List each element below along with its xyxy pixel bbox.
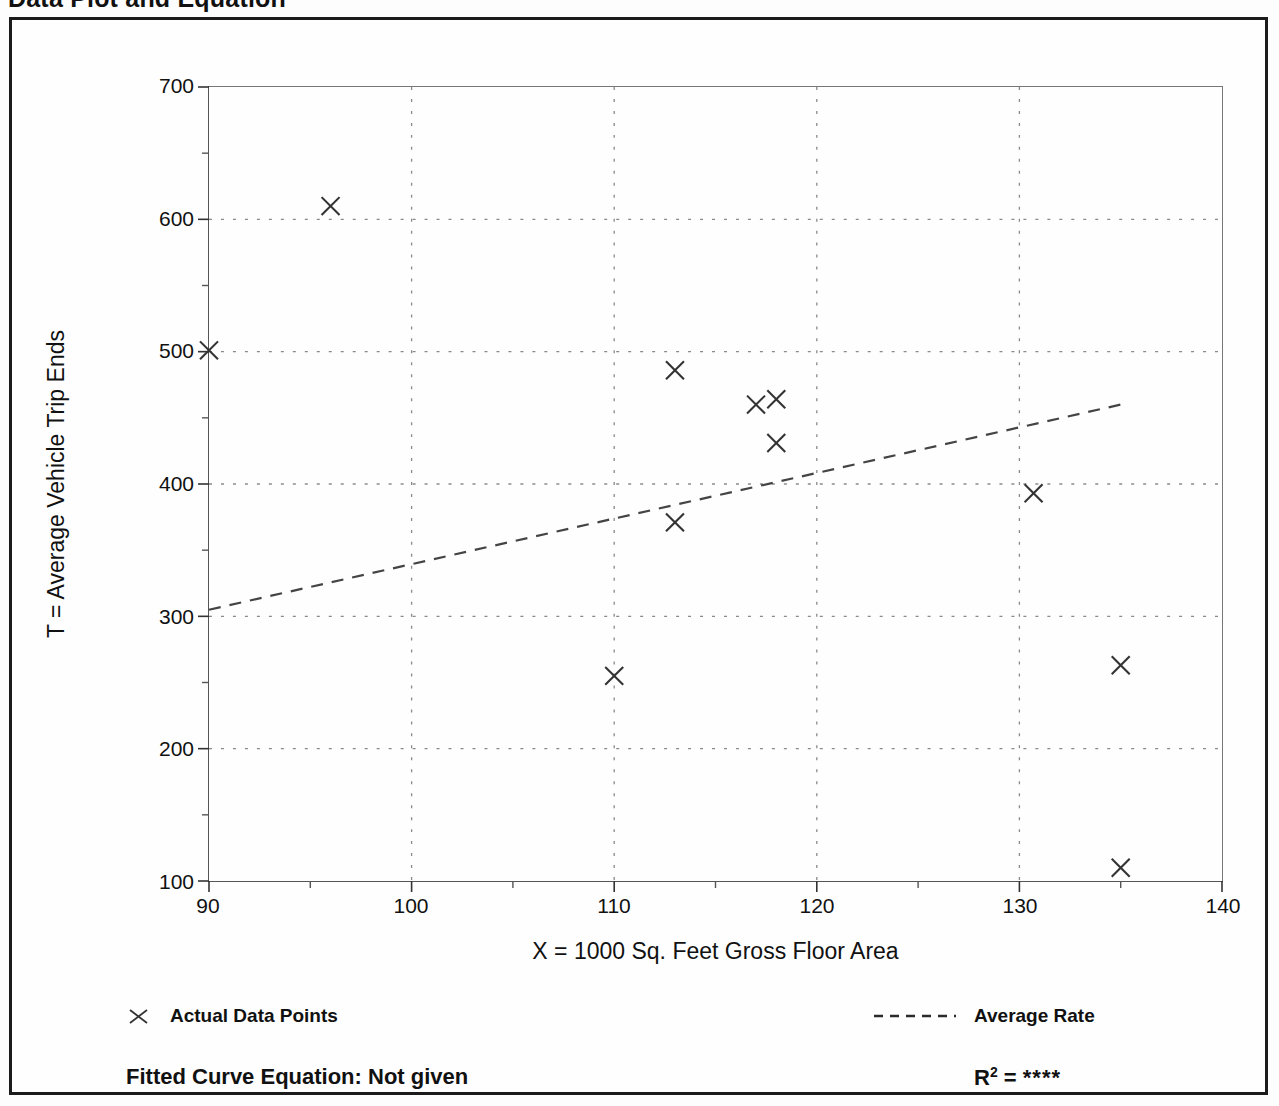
data-layer [209,87,1222,881]
r-squared-equals: = [1004,1065,1017,1090]
data-point [767,434,785,452]
r-squared-value: **** [1023,1065,1061,1090]
r-squared-block: R2 = **** [974,1064,1061,1091]
x-tick-label: 120 [799,894,834,918]
x-axis-tick-labels: 90100110120130140 [208,894,1223,922]
y-tick-label: 100 [159,870,194,894]
r-squared-exponent: 2 [990,1064,998,1080]
data-point [1112,656,1130,674]
y-tick-label: 200 [159,737,194,761]
data-point [666,361,684,379]
data-point [767,390,785,408]
y-tick-label: 700 [159,74,194,98]
y-tick-label: 600 [159,207,194,231]
page-title: Data Plot and Equation [8,0,286,13]
y-tick-label: 400 [159,472,194,496]
legend-label-actual-data-points: Actual Data Points [170,1005,338,1027]
data-point [1025,484,1043,502]
chart-footer: Fitted Curve Equation: Not given R2 = **… [112,1064,1192,1104]
x-tick-label: 90 [196,894,219,918]
plot-area [208,86,1223,882]
dashed-line-icon [872,1005,958,1027]
legend-item-average-rate: Average Rate [872,1005,1095,1027]
r-squared-label: R [974,1065,990,1090]
data-point [200,341,218,359]
x-cross-marker-icon [124,1005,154,1027]
data-point [322,197,340,215]
data-point [1112,859,1130,877]
x-axis-label: X = 1000 Sq. Feet Gross Floor Area [208,938,1223,965]
data-point [747,396,765,414]
x-tick-label: 100 [393,894,428,918]
data-point [666,513,684,531]
legend-label-average-rate: Average Rate [974,1005,1095,1027]
y-axis-label: T = Average Vehicle Trip Ends [43,330,70,638]
chart-legend: Actual Data Points Average Rate [112,1005,1192,1039]
legend-item-actual-data-points: Actual Data Points [124,1005,338,1027]
y-axis-tick-labels: 100200300400500600700 [132,86,194,882]
chart-panel: T = Average Vehicle Trip Ends X = 1000 S… [9,17,1268,1095]
x-tick-label: 140 [1205,894,1240,918]
y-tick-label: 300 [159,605,194,629]
chart-page: Data Plot and Equation T = Average Vehic… [0,0,1279,1106]
fitted-curve-equation: Fitted Curve Equation: Not given [126,1064,468,1090]
y-tick-label: 500 [159,339,194,363]
x-tick-label: 110 [597,894,630,918]
data-point [605,667,623,685]
x-tick-label: 130 [1002,894,1037,918]
